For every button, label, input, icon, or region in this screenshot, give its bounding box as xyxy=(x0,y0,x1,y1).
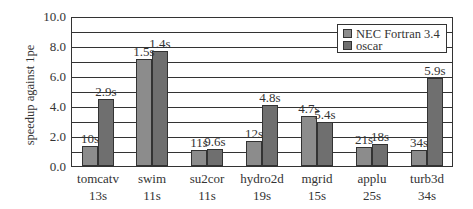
category-name: swim xyxy=(122,171,182,186)
x-tick-label-applu: applu25s xyxy=(342,171,402,203)
legend-swatch-nec xyxy=(343,29,352,38)
bar-annotation: 10s xyxy=(80,132,100,145)
bar-applu-oscar xyxy=(372,144,388,166)
bar-su2cor-nec xyxy=(191,150,207,166)
bar-hydro2d-nec xyxy=(246,141,262,166)
bar-tomcatv-oscar xyxy=(98,99,114,166)
category-name: mgrid xyxy=(287,171,347,186)
bar-tomcatv-nec xyxy=(82,146,98,167)
x-tick-label-swim: swim11s xyxy=(122,171,182,203)
category-name: turb3d xyxy=(397,171,457,186)
bar-annotation: 4.8s xyxy=(258,91,281,104)
category-name: tomcatv xyxy=(68,171,128,186)
gridline xyxy=(72,62,452,63)
y-tick-label: 10.0 xyxy=(26,10,66,23)
legend-label-oscar: oscar xyxy=(356,39,382,53)
category-time: 34s xyxy=(397,188,457,203)
category-time: 25s xyxy=(342,188,402,203)
bar-mgrid-nec xyxy=(301,116,317,167)
y-tick-label: 4.0 xyxy=(26,100,66,113)
bar-turb3d-nec xyxy=(411,150,427,166)
category-time: 11s xyxy=(122,188,182,203)
bar-turb3d-oscar xyxy=(427,78,443,166)
y-tick-label: 0.0 xyxy=(26,160,66,173)
bar-annotation: 2.9s xyxy=(94,85,117,98)
bar-annotation: 12s xyxy=(244,127,264,140)
x-tick-label-mgrid: mgrid15s xyxy=(287,171,347,203)
bar-swim-oscar xyxy=(152,51,168,166)
legend-item-oscar: oscar xyxy=(343,40,382,53)
bar-annotation: 34s xyxy=(409,136,429,149)
x-tick-label-turb3d: turb3d34s xyxy=(397,171,457,203)
bar-annotation: 1.4s xyxy=(148,37,171,50)
y-tick-label: 6.0 xyxy=(26,70,66,83)
bar-applu-nec xyxy=(356,147,372,166)
category-name: su2cor xyxy=(177,171,237,186)
x-tick-label-su2cor: su2cor11s xyxy=(177,171,237,203)
bar-su2cor-oscar xyxy=(207,149,223,167)
x-tick-label-hydro2d: hydro2d19s xyxy=(232,171,292,203)
bar-annotation: 5.9s xyxy=(423,64,446,77)
bar-swim-nec xyxy=(136,59,152,167)
category-time: 11s xyxy=(177,188,237,203)
bar-mgrid-oscar xyxy=(317,122,333,167)
category-time: 13s xyxy=(68,188,128,203)
category-name: hydro2d xyxy=(232,171,292,186)
bar-hydro2d-oscar xyxy=(262,105,278,166)
category-name: applu xyxy=(342,171,402,186)
y-tick-label: 2.0 xyxy=(26,130,66,143)
legend: NEC Fortran 3.4 oscar xyxy=(337,24,447,53)
bar-annotation: 5.4s xyxy=(313,108,336,121)
gridline xyxy=(72,77,452,78)
bar-annotation: 18s xyxy=(370,130,390,143)
category-time: 15s xyxy=(287,188,347,203)
bar-annotation: 9.6s xyxy=(203,135,226,148)
y-tick-label: 8.0 xyxy=(26,40,66,53)
legend-swatch-oscar xyxy=(343,41,352,50)
x-tick-label-tomcatv: tomcatv13s xyxy=(68,171,128,203)
category-time: 19s xyxy=(232,188,292,203)
speedup-bar-chart: speedup against 1pe 0.02.04.06.08.010.0 … xyxy=(0,0,473,209)
